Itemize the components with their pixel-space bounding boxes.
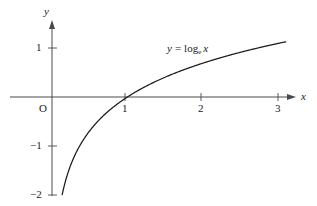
x-axis bbox=[10, 94, 296, 100]
x-axis-label: x bbox=[301, 91, 306, 102]
x-tick-label-2: 2 bbox=[198, 103, 204, 114]
equation-base: e bbox=[198, 48, 201, 56]
equation-function: log bbox=[184, 42, 198, 54]
x-tick-label-1: 1 bbox=[122, 103, 128, 114]
plot-canvas bbox=[0, 0, 317, 206]
equation-operator: = bbox=[175, 42, 181, 54]
y-axis-label: y bbox=[44, 6, 49, 17]
y-tick-label-neg1: −1 bbox=[30, 140, 42, 151]
y-axis bbox=[49, 20, 55, 196]
equation-lhs: y bbox=[167, 42, 172, 54]
x-tick-label-3: 3 bbox=[275, 103, 281, 114]
y-tick-label-neg2: −2 bbox=[30, 189, 42, 200]
x-axis-arrowhead bbox=[287, 94, 296, 100]
origin-label: O bbox=[39, 103, 47, 114]
log-curve bbox=[62, 42, 286, 195]
equation-argument: x bbox=[203, 42, 208, 54]
y-axis-arrowhead bbox=[49, 20, 55, 29]
y-tick-label-1: 1 bbox=[36, 42, 42, 53]
logarithm-graph-figure: y x O 1 −1 −2 1 2 3 y=logex bbox=[0, 0, 317, 206]
curve-equation-label: y=logex bbox=[167, 43, 208, 54]
